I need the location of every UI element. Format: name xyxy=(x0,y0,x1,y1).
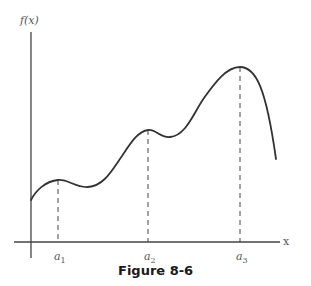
function-plot xyxy=(0,0,311,286)
figure-8-6: f(x) x a1 a2 a3 Figure 8-6 xyxy=(0,0,311,286)
figure-caption: Figure 8-6 xyxy=(118,263,193,278)
point-label-a1: a1 xyxy=(54,251,66,265)
y-axis-label: f(x) xyxy=(20,15,39,26)
function-curve xyxy=(31,67,276,200)
x-axis-label: x xyxy=(283,236,289,247)
point-label-a3: a3 xyxy=(236,251,248,265)
